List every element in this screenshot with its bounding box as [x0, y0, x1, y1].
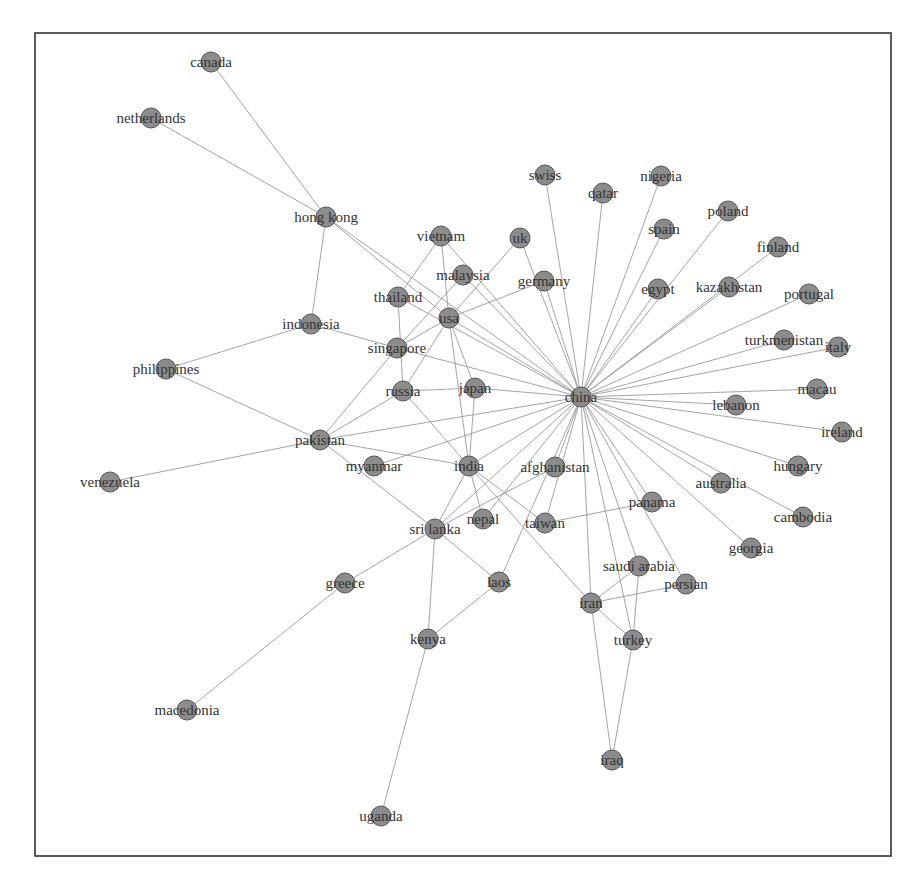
- node-label-japan: japan: [458, 380, 492, 396]
- node-label-turkmenistan: turkmenistan: [745, 332, 824, 348]
- node-label-macau: macau: [797, 381, 837, 397]
- node-label-hungary: hungary: [773, 458, 823, 474]
- edge-layer: [110, 62, 842, 816]
- edge-uk-china: [520, 238, 581, 397]
- edge-egypt-china: [581, 289, 658, 397]
- node-label-cambodia: cambodia: [774, 509, 833, 525]
- edge-kenya-uganda: [381, 639, 428, 816]
- node-label-pakistan: pakistan: [295, 432, 345, 448]
- node-label-venezuela: venezuela: [80, 474, 140, 490]
- node-label-philippines: philippines: [133, 361, 200, 377]
- node-label-vietnam: vietnam: [417, 228, 466, 244]
- node-label-panama: panama: [629, 494, 676, 510]
- node-label-uganda: uganda: [359, 808, 403, 824]
- edge-turkmenistan-china: [581, 340, 784, 397]
- edge-iran-iraq: [591, 603, 612, 760]
- edge-spain-china: [581, 229, 664, 397]
- node-label-macedonia: macedonia: [155, 702, 220, 718]
- edge-pakistan-china: [320, 397, 581, 440]
- node-label-taiwan: taiwan: [525, 515, 565, 531]
- plot-frame: [35, 33, 891, 856]
- node-label-australia: australia: [696, 475, 747, 491]
- edge-turkey-iraq: [612, 640, 633, 760]
- network-graph: canadanetherlandshong kongvietnamukswiss…: [0, 0, 920, 884]
- node-label-hong-kong: hong kong: [294, 209, 358, 225]
- node-label-iraq: iraq: [600, 752, 624, 768]
- edge-venezuela-pakistan: [110, 440, 320, 482]
- node-label-nepal: nepal: [467, 511, 499, 527]
- edge-pakistan-sri-lanka: [320, 440, 435, 529]
- edge-australia-china: [581, 397, 721, 483]
- edge-canada-hong-kong: [211, 62, 326, 217]
- node-label-thailand: thailand: [374, 289, 423, 305]
- edge-hong-kong-indonesia: [311, 217, 326, 324]
- node-label-finland: finland: [757, 239, 800, 255]
- edge-vietnam-thailand: [398, 236, 441, 297]
- node-label-malaysia: malaysia: [436, 267, 490, 283]
- node-label-kenya: kenya: [410, 631, 446, 647]
- node-label-qatar: qatar: [588, 185, 618, 201]
- node-label-afghanistan: afghanistan: [520, 459, 590, 475]
- node-label-usa: usa: [439, 310, 459, 326]
- node-label-egypt: egypt: [641, 281, 675, 297]
- edge-sri-lanka-kenya: [428, 529, 435, 639]
- edge-myanmar-china: [374, 397, 581, 466]
- node-label-spain: spain: [648, 221, 680, 237]
- edge-greece-macedonia: [187, 583, 345, 710]
- node-label-georgia: georgia: [729, 540, 774, 556]
- node-label-turkey: turkey: [614, 632, 653, 648]
- edge-afghanistan-china: [555, 397, 581, 467]
- node-label-indonesia: indonesia: [282, 316, 340, 332]
- node-label-ireland: ireland: [821, 424, 863, 440]
- node-label-iran: iran: [579, 595, 603, 611]
- node-label-china: china: [565, 389, 598, 405]
- node-label-greece: greece: [325, 575, 364, 591]
- edge-india-sri-lanka: [435, 466, 469, 529]
- edge-hong-kong-china: [326, 217, 581, 397]
- node-label-myanmar: myanmar: [346, 458, 403, 474]
- node-label-nigeria: nigeria: [640, 168, 682, 184]
- node-label-kazakhstan: kazakhstan: [696, 279, 763, 295]
- edge-russia-india: [403, 391, 469, 466]
- node-label-saudi-arabia: saudi arabia: [603, 558, 675, 574]
- edge-japan-india: [469, 388, 475, 466]
- edge-nepal-china: [483, 397, 581, 519]
- edge-iran-china: [581, 397, 591, 603]
- node-label-uk: uk: [513, 230, 529, 246]
- node-label-russia: russia: [386, 383, 421, 399]
- node-label-lebanon: lebanon: [712, 397, 760, 413]
- edge-usa-japan: [449, 318, 475, 388]
- node-label-persian: persian: [664, 576, 708, 592]
- edge-philippines-pakistan: [166, 369, 320, 440]
- node-label-singapore: singapore: [368, 340, 427, 356]
- edge-netherlands-hong-kong: [151, 118, 326, 217]
- node-label-canada: canada: [190, 54, 232, 70]
- node-label-germany: germany: [518, 273, 571, 289]
- node-label-laos: laos: [487, 574, 511, 590]
- edge-panama-china: [581, 397, 652, 502]
- node-label-sri-lanka: sri lanka: [409, 521, 461, 537]
- edge-vietnam-china: [441, 236, 581, 397]
- node-label-poland: poland: [708, 203, 749, 219]
- edge-malaysia-china: [463, 275, 581, 397]
- node-label-portugal: portugal: [784, 286, 834, 302]
- node-label-india: india: [454, 458, 484, 474]
- label-layer: canadanetherlandshong kongvietnamukswiss…: [80, 54, 863, 824]
- node-label-italy: italy: [825, 339, 852, 355]
- edge-saudi-arabia-turkey: [633, 566, 639, 640]
- node-label-netherlands: netherlands: [116, 110, 185, 126]
- node-label-swiss: swiss: [529, 167, 562, 183]
